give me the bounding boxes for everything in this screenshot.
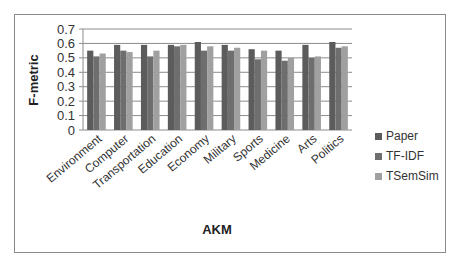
legend-swatch	[375, 153, 382, 160]
x-axis-title: AKM	[202, 222, 232, 237]
bar-tsemsim	[180, 45, 186, 130]
y-tick-label: 0.3	[57, 79, 75, 94]
y-tick-label: 0.6	[57, 36, 75, 51]
bar-paper	[222, 45, 228, 130]
y-tick-label: 0.1	[57, 108, 75, 123]
bar-tsemsim	[261, 51, 267, 130]
bar-paper	[249, 49, 255, 130]
legend: PaperTF-IDFTSemSim	[375, 129, 439, 183]
bar-tf-idf	[93, 56, 99, 130]
bar-series	[87, 42, 348, 130]
bar-paper	[302, 45, 308, 130]
bar-tsemsim	[100, 54, 106, 130]
y-tick-label: 0.7	[57, 22, 75, 37]
bar-tf-idf	[201, 51, 207, 130]
bar-paper	[329, 42, 335, 130]
bar-tf-idf	[147, 56, 153, 130]
bar-paper	[114, 45, 120, 130]
y-tick-label: 0	[68, 123, 75, 138]
bar-tf-idf	[255, 59, 261, 130]
bar-paper	[141, 45, 147, 130]
bar-tsemsim	[126, 52, 132, 130]
legend-swatch	[375, 133, 382, 140]
bar-tf-idf	[174, 46, 180, 130]
bar-tsemsim	[315, 56, 321, 130]
bar-paper	[195, 42, 201, 130]
y-tick-label: 0.5	[57, 50, 75, 65]
y-tick-label: 0.4	[57, 65, 75, 80]
bar-tf-idf	[228, 51, 234, 130]
bar-tsemsim	[207, 46, 213, 130]
y-tick-label: 0.2	[57, 94, 75, 109]
bar-tf-idf	[309, 58, 315, 130]
bar-tsemsim	[342, 46, 348, 130]
x-axis-labels: EnvironmentComputerTransportationEducati…	[44, 131, 347, 192]
legend-label: Paper	[386, 129, 418, 143]
bar-tf-idf	[282, 61, 288, 130]
legend-label: TSemSim	[386, 169, 439, 183]
bar-tf-idf	[335, 48, 341, 130]
bar-paper	[168, 45, 174, 130]
bar-tsemsim	[153, 51, 159, 130]
bar-paper	[275, 51, 281, 130]
y-axis-ticks: 00.10.20.30.40.50.60.7	[57, 22, 75, 138]
bar-tf-idf	[120, 51, 126, 130]
bar-chart: 00.10.20.30.40.50.60.7 EnvironmentComput…	[0, 0, 459, 269]
legend-label: TF-IDF	[386, 149, 424, 163]
bar-tsemsim	[234, 48, 240, 130]
bar-paper	[87, 51, 93, 130]
legend-swatch	[375, 173, 382, 180]
y-axis-title: F-metric	[26, 54, 41, 105]
bar-tsemsim	[288, 58, 294, 130]
